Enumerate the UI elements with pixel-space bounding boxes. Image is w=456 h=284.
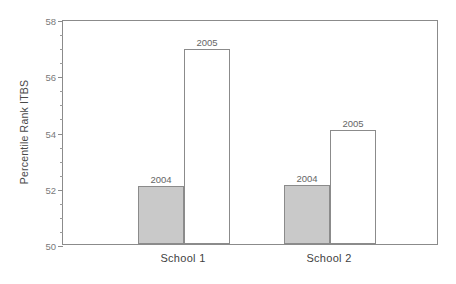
y-axis-minor-tick [60, 49, 63, 50]
y-axis-minor-tick [60, 218, 63, 219]
bar-school-2-2005[interactable] [330, 130, 376, 244]
y-axis-major-tick [58, 77, 63, 78]
y-axis-minor-tick [60, 105, 63, 106]
y-axis-major-tick [58, 246, 63, 247]
y-axis-minor-tick [60, 162, 63, 163]
bar-chart-figure: Percentile Rank ITBS 5052545658200420052… [0, 0, 456, 284]
bar-school-2-2004[interactable] [284, 185, 330, 244]
y-axis-tick-label: 54 [45, 128, 56, 139]
y-axis-minor-tick [60, 91, 63, 92]
bar-value-label: 2005 [196, 37, 217, 48]
x-axis-category-label-2: School 2 [306, 252, 351, 264]
y-axis-major-tick [58, 21, 63, 22]
y-axis-title: Percentile Rank ITBS [16, 42, 32, 222]
bar-value-label: 2004 [296, 173, 317, 184]
plot-area: 50525456582004200520042005 [62, 20, 438, 245]
y-axis-minor-tick [60, 204, 63, 205]
bar-school-1-2005[interactable] [184, 49, 230, 244]
y-axis-title-label: Percentile Rank ITBS [18, 80, 30, 184]
y-axis-tick-label: 52 [45, 184, 56, 195]
y-axis-tick-label: 56 [45, 72, 56, 83]
bar-school-1-2004[interactable] [138, 186, 184, 244]
y-axis-minor-tick [60, 119, 63, 120]
y-axis-tick-label: 58 [45, 16, 56, 27]
y-axis-minor-tick [60, 35, 63, 36]
bar-value-label: 2005 [342, 118, 363, 129]
y-axis-minor-tick [60, 63, 63, 64]
y-axis-minor-tick [60, 148, 63, 149]
x-axis-category-label-1: School 1 [160, 252, 205, 264]
bar-value-label: 2004 [150, 174, 171, 185]
y-axis-tick-label: 50 [45, 241, 56, 252]
y-axis-minor-tick [60, 232, 63, 233]
y-axis-major-tick [58, 190, 63, 191]
y-axis-minor-tick [60, 176, 63, 177]
y-axis-major-tick [58, 134, 63, 135]
